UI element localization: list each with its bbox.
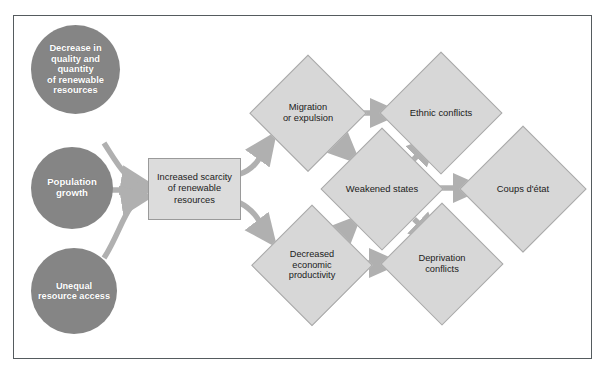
- node-label: Decreased economic productivity: [289, 249, 335, 282]
- edge-unequal-to-scarcity: [104, 197, 146, 258]
- node-unequal-resource-access[interactable]: Unequal resource access: [31, 248, 117, 334]
- diagram-page: Decrease in quality and quantity of rene…: [0, 0, 609, 375]
- node-label: Decrease in quality and quantity of rene…: [41, 43, 110, 95]
- node-decreased-economic-productivity[interactable]: Decreased economic productivity: [254, 207, 370, 323]
- node-deprivation-conflicts[interactable]: Deprivation conflicts: [383, 205, 501, 323]
- node-increased-scarcity[interactable]: Increased scarcity of renewable resource…: [148, 158, 241, 220]
- node-label: Coups d'état: [497, 183, 549, 194]
- node-label: Deprivation conflicts: [418, 253, 465, 275]
- node-decrease-quality-quantity[interactable]: Decrease in quality and quantity of rene…: [31, 25, 120, 114]
- node-population-growth[interactable]: Population growth: [31, 147, 113, 229]
- node-label: Population growth: [41, 177, 103, 198]
- node-label: Unequal resource access: [32, 281, 116, 302]
- node-label: Increased scarcity of renewable resource…: [157, 172, 232, 205]
- node-label: Ethnic conflicts: [410, 107, 473, 118]
- node-label: Migration or expulsion: [283, 102, 333, 124]
- node-label: Weakened states: [346, 183, 418, 194]
